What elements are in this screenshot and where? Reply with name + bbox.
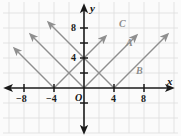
xtick-label-neg8: −8 [16,94,27,104]
x-axis [6,84,170,92]
xtick-label-pos4: 4 [111,94,116,104]
curve-label-a: A [126,38,133,48]
curve-b [50,24,166,88]
curve-label-c: C [119,19,126,29]
xtick-label-neg4: −4 [46,94,57,104]
curve-label-b: B [136,66,143,76]
grid-lines [3,2,178,133]
y-axis [80,8,88,132]
x-axis-label: x [167,76,173,87]
ytick-label-8: 8 [71,23,76,33]
ytick-label-4: 4 [71,53,76,63]
y-axis-label: y [90,3,95,14]
graph-figure: x y O −8 −4 4 8 4 8 C A B [0,0,181,136]
xtick-label-pos8: 8 [141,94,146,104]
origin-label: O [75,93,82,103]
coordinate-plane [0,0,181,136]
